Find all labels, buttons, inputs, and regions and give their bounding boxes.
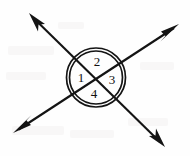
geometry-figure: 1 2 3 4 (0, 0, 190, 156)
figure-canvas: 1 2 3 4 (0, 0, 190, 156)
arrowhead-lower-right (149, 129, 165, 148)
angle-label-1: 1 (78, 70, 85, 85)
angle-label-2: 2 (94, 54, 101, 69)
arrowhead-upper-right (161, 24, 180, 42)
angle-label-4: 4 (91, 86, 98, 101)
arrowhead-upper-left (29, 13, 45, 32)
angle-label-3: 3 (109, 72, 116, 87)
line-upper-left-to-lower-right (34, 19, 160, 143)
